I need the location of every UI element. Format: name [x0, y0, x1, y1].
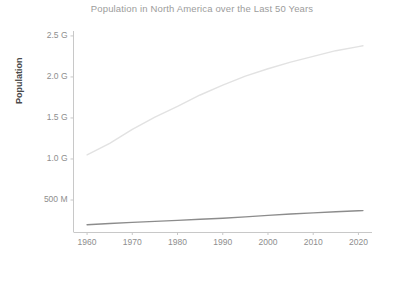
x-tick-label: 1980 [158, 237, 198, 247]
x-tick-label: 1970 [112, 237, 152, 247]
series-line [87, 46, 363, 155]
x-tick-label: 1990 [203, 237, 243, 247]
x-tick-label: 2020 [338, 237, 378, 247]
population-chart-page: Population in North America over the Las… [0, 0, 404, 287]
axis-lines [74, 31, 373, 233]
x-tick-label: 1960 [67, 237, 107, 247]
y-tick-label: 1.0 G [26, 153, 68, 163]
y-tick-label: 2.5 G [26, 30, 68, 40]
series-lines [87, 46, 363, 225]
chart-container: Population in North America over the Las… [0, 0, 404, 252]
x-tick-label: 2010 [293, 237, 333, 247]
y-tick-label: 1.5 G [26, 112, 68, 122]
y-tick-label: 2.0 G [26, 71, 68, 81]
series-line [87, 211, 363, 225]
control-bar: Select_Country_Name East Asia & Pacific [0, 252, 404, 287]
x-tick-label: 2000 [248, 237, 288, 247]
y-tick-label: 500 M [26, 194, 68, 204]
